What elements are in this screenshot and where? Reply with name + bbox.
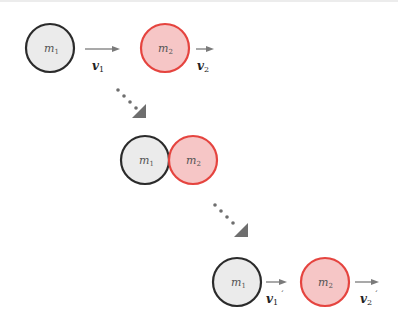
velocity-1-arrow-icon bbox=[85, 46, 120, 52]
step-arrow-1-icon bbox=[116, 88, 146, 118]
mass-1-after: m1 bbox=[213, 258, 261, 306]
mass-2-collision: m2 bbox=[169, 136, 217, 184]
step-arrow-2-icon bbox=[213, 203, 248, 237]
mass-1-collision: m1 bbox=[121, 136, 169, 184]
mass-2-after: m2 bbox=[301, 258, 349, 306]
mass-2-before: m2 bbox=[141, 24, 189, 72]
velocity-1-label: v1 bbox=[92, 59, 104, 74]
mass-1-before: m1 bbox=[26, 24, 74, 72]
velocity-1-prime-arrow-icon bbox=[266, 279, 287, 285]
velocity-2-arrow-icon bbox=[196, 46, 214, 52]
stage-after: m1 v1´ m2 v2´ bbox=[213, 258, 379, 307]
velocity-2-prime-arrow-icon bbox=[355, 279, 379, 285]
stage-before: m1 v1 m2 v2 bbox=[26, 24, 214, 74]
velocity-1-prime-label: v1´ bbox=[266, 290, 284, 307]
collision-diagram: m1 v1 m2 v2 bbox=[0, 0, 398, 324]
stage-collision: m1 m2 bbox=[121, 136, 217, 184]
top-border bbox=[0, 0, 398, 2]
velocity-2-prime-label: v2´ bbox=[360, 290, 378, 307]
velocity-2-label: v2 bbox=[197, 59, 209, 74]
